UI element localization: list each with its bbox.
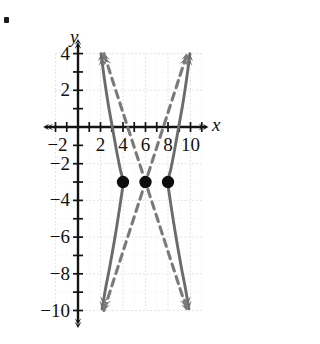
x-tick-label: −2 [47,135,67,154]
coordinate-plane-svg [0,0,320,344]
y-tick-label: −6 [50,227,70,246]
x-axis-label: x [212,115,220,134]
y-tick-label: −8 [50,264,70,283]
x-tick-label: 4 [118,135,128,154]
y-tick-label: 4 [61,44,71,63]
x-tick-label: 2 [96,135,106,154]
y-axis-label: y [70,27,78,46]
y-tick-label: −2 [50,154,70,173]
plot-point-vertex-left[interactable] [117,176,129,188]
y-tick-label: −10 [40,301,70,320]
x-tick-label: 8 [163,135,173,154]
plot-point-center[interactable] [139,176,151,188]
y-tick-label: −4 [50,190,70,209]
y-tick-label: 2 [61,80,71,99]
x-tick-label: 10 [181,135,200,154]
figure-canvas: −224681042−2−4−6−8−10xy [0,0,320,344]
plot-point-vertex-right[interactable] [162,176,174,188]
x-tick-label: 6 [141,135,151,154]
plotted-points [117,176,174,188]
